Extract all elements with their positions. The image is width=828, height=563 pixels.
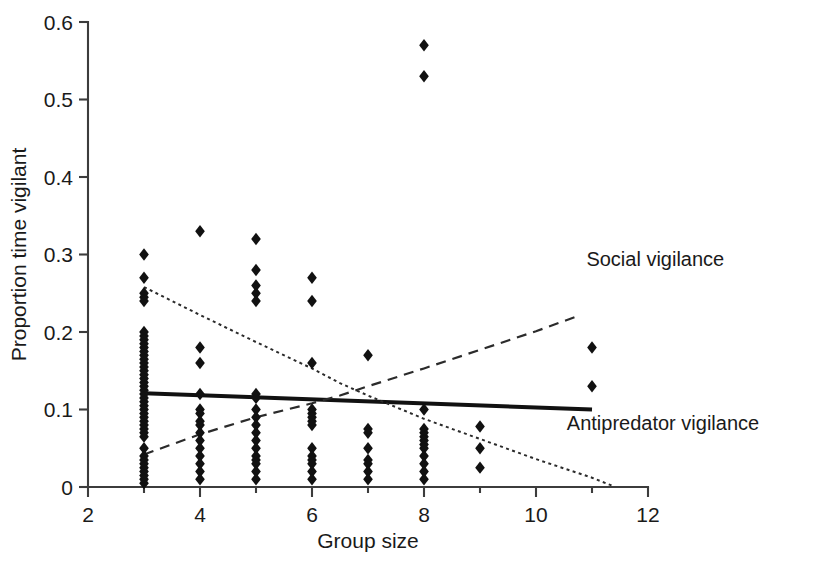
scatter-plot: 00.10.20.30.40.50.624681012 Social vigil… xyxy=(0,0,828,563)
data-point-marker xyxy=(195,341,205,353)
data-point-marker xyxy=(307,357,317,369)
data-point-marker xyxy=(195,357,205,369)
data-point-marker xyxy=(475,420,485,432)
data-point-marker xyxy=(251,264,261,276)
data-point-marker xyxy=(195,225,205,237)
x-axis-title: Group size xyxy=(317,529,419,552)
trend-line-antipredator-vigilance xyxy=(144,287,612,485)
y-tick-label: 0.3 xyxy=(44,243,73,266)
data-point-marker xyxy=(363,442,373,454)
x-tick-label: 12 xyxy=(636,503,659,526)
axis-ticks: 00.10.20.30.40.50.624681012 xyxy=(44,11,660,527)
data-point-marker xyxy=(251,295,261,307)
data-point-marker xyxy=(587,380,597,392)
y-tick-label: 0 xyxy=(61,476,73,499)
data-point-marker xyxy=(475,461,485,473)
data-point-marker xyxy=(307,473,317,485)
data-point-marker xyxy=(419,70,429,82)
y-tick-label: 0.4 xyxy=(44,166,74,189)
x-tick-label: 8 xyxy=(418,503,430,526)
y-tick-label: 0.1 xyxy=(44,398,73,421)
data-point-marker xyxy=(251,473,261,485)
data-point-marker xyxy=(139,248,149,260)
trend-line-total-vigilance xyxy=(144,393,592,409)
x-tick-label: 4 xyxy=(194,503,206,526)
axis-lines xyxy=(88,22,648,487)
curve-annotations: Social vigilanceAntipredator vigilance xyxy=(567,248,759,434)
data-point-marker xyxy=(251,233,261,245)
data-point-marker xyxy=(139,272,149,284)
data-point-marker xyxy=(195,473,205,485)
data-points xyxy=(139,39,597,489)
data-point-marker xyxy=(307,272,317,284)
trend-lines xyxy=(144,287,612,485)
data-point-marker xyxy=(363,473,373,485)
data-point-marker xyxy=(419,473,429,485)
antipredator-vigilance-label: Antipredator vigilance xyxy=(567,412,759,434)
x-tick-label: 6 xyxy=(306,503,318,526)
y-axis-title: Proportion time vigilant xyxy=(7,148,30,362)
data-point-marker xyxy=(419,39,429,51)
data-point-marker xyxy=(587,341,597,353)
social-vigilance-label: Social vigilance xyxy=(586,248,724,270)
data-point-marker xyxy=(475,442,485,454)
y-tick-label: 0.5 xyxy=(44,88,73,111)
trend-line-social-vigilance xyxy=(144,315,581,455)
data-point-marker xyxy=(195,388,205,400)
y-tick-label: 0.2 xyxy=(44,321,73,344)
y-tick-label: 0.6 xyxy=(44,11,73,34)
x-tick-label: 2 xyxy=(82,503,94,526)
data-point-marker xyxy=(363,349,373,361)
data-point-marker xyxy=(307,295,317,307)
x-tick-label: 10 xyxy=(524,503,547,526)
chart-figure: 00.10.20.30.40.50.624681012 Social vigil… xyxy=(0,0,828,563)
